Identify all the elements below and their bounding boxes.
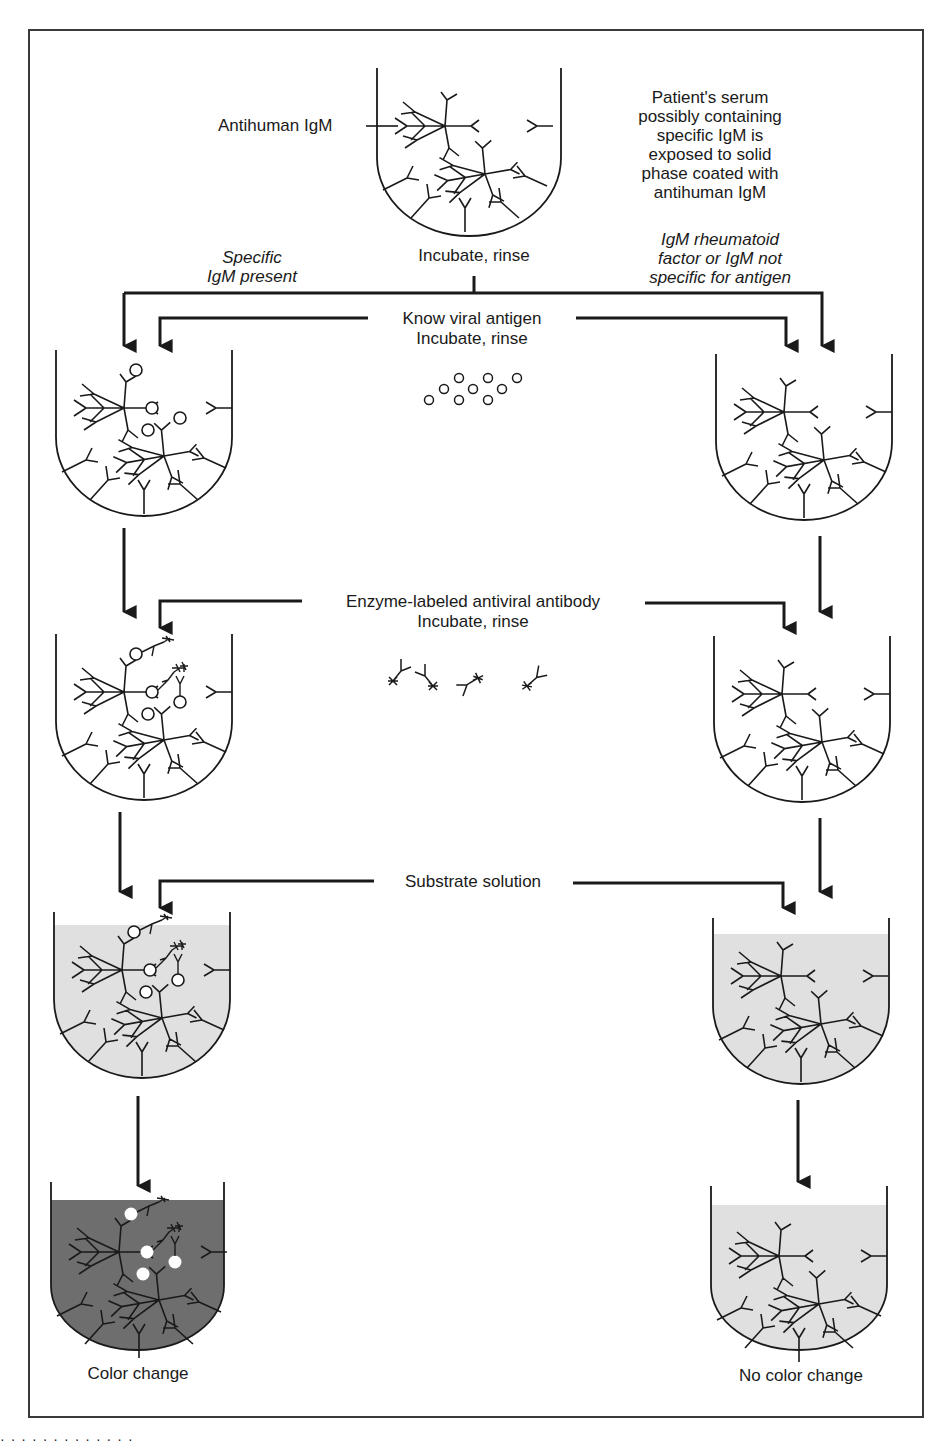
antihuman-igm-label: Antihuman IgM [218, 116, 332, 136]
antigen-circles-icon [425, 374, 522, 405]
top-well [377, 68, 561, 236]
specific-igm-present-label: Specific IgM present [192, 248, 312, 286]
antigen-arrow-right [576, 318, 786, 346]
well-right-substrate [713, 918, 889, 1084]
well-right-step2 [714, 636, 890, 802]
labeled-antibody-arrow-left [160, 601, 302, 628]
well-left-step2 [56, 634, 232, 800]
well-left-step1 [56, 350, 232, 516]
step-labeled-antibody-label: Enzyme-labeled antiviral antibody Incuba… [300, 592, 646, 632]
top-step-label: Incubate, rinse [396, 246, 552, 266]
well-right-no-color-change [711, 1186, 887, 1362]
step-substrate-label: Substrate solution [372, 872, 574, 892]
well-left-substrate [54, 912, 230, 1078]
decorative-dotted-rule: ············· [0, 1434, 139, 1444]
elisa-diagram [0, 0, 940, 1446]
result-color-change: Color change [56, 1364, 220, 1384]
labeled-antibody-icon [388, 659, 549, 700]
nonspecific-igm-label: IgM rheumatoid factor or IgM not specifi… [610, 230, 830, 287]
well-right-step1 [716, 354, 892, 520]
substrate-arrow-right [573, 883, 783, 908]
well-left-color-change [51, 1182, 227, 1358]
labeled-antibody-arrow-right [645, 603, 784, 628]
antigen-arrow-left [160, 318, 368, 346]
result-no-color-change: No color change [706, 1366, 896, 1386]
serum-description: Patient's serum possibly containing spec… [600, 88, 820, 202]
step-antigen-label: Know viral antigen Incubate, rinse [366, 309, 578, 349]
substrate-arrow-left [160, 881, 374, 908]
